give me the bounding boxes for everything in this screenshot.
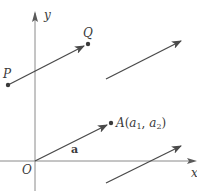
close-paren: ) xyxy=(162,116,167,130)
point-q xyxy=(86,42,90,46)
point-a-name: A xyxy=(115,116,125,130)
point-p-label: P xyxy=(2,67,12,81)
point-q-label: Q xyxy=(83,26,93,40)
vector-copy-upper-right xyxy=(106,41,181,79)
origin-label: O xyxy=(22,163,32,177)
axes: y x O xyxy=(0,8,197,191)
equivalent-vectors xyxy=(106,41,181,183)
vector-copy-lower-right xyxy=(106,146,181,183)
y-axis-label: y xyxy=(43,8,51,22)
vector-pq: P Q xyxy=(2,26,93,87)
point-a xyxy=(109,121,113,125)
comma: , xyxy=(142,116,150,130)
vector-a-label: a xyxy=(71,143,78,156)
vector-a: a A(a1, a2) xyxy=(35,116,166,161)
x-axis-label: x xyxy=(191,166,197,180)
vector-diagram: y x O P Q a A(a1, a2) xyxy=(0,0,197,191)
a1-symbol: a xyxy=(129,116,136,130)
point-p xyxy=(6,83,10,87)
vector-pq-line xyxy=(8,46,84,85)
a2-symbol: a xyxy=(149,116,156,130)
point-a-label: A(a1, a2) xyxy=(115,116,166,131)
